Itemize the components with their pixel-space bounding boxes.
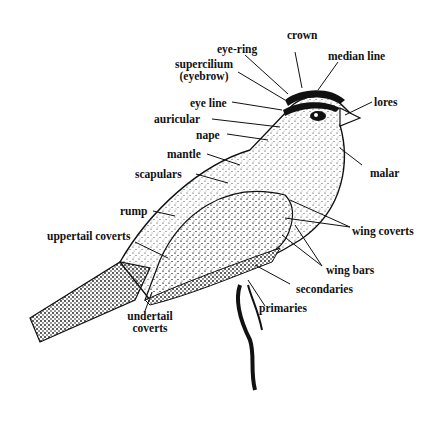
label-wing-coverts: wing coverts bbox=[352, 225, 414, 237]
label-scapulars: scapulars bbox=[135, 168, 182, 180]
label-wing-bars: wing bars bbox=[326, 264, 374, 276]
label-supercilium: supercilium (eyebrow) bbox=[170, 58, 238, 82]
label-malar: malar bbox=[370, 167, 399, 179]
label-eye-line: eye line bbox=[190, 97, 227, 109]
label-eye-ring: eye-ring bbox=[217, 43, 257, 55]
label-mantle: mantle bbox=[167, 148, 201, 160]
label-supercilium-text: supercilium bbox=[175, 58, 233, 70]
label-lores: lores bbox=[374, 96, 397, 108]
label-nape: nape bbox=[196, 129, 220, 141]
label-primaries: primaries bbox=[259, 302, 307, 314]
label-uppertail-coverts: uppertail coverts bbox=[47, 230, 130, 242]
label-median-line: median line bbox=[328, 50, 385, 62]
label-eyebrow-text: (eyebrow) bbox=[180, 70, 229, 82]
label-coverts-text: coverts bbox=[132, 322, 167, 334]
label-crown: crown bbox=[287, 29, 317, 41]
label-rump: rump bbox=[120, 205, 147, 217]
bird-topography-diagram: crown eye-ring median line supercilium (… bbox=[0, 0, 447, 425]
label-secondaries: secondaries bbox=[296, 283, 353, 295]
label-undertail-coverts: undertail coverts bbox=[118, 310, 182, 334]
label-undertail-text: undertail bbox=[127, 310, 172, 322]
label-auricular: auricular bbox=[154, 113, 200, 125]
